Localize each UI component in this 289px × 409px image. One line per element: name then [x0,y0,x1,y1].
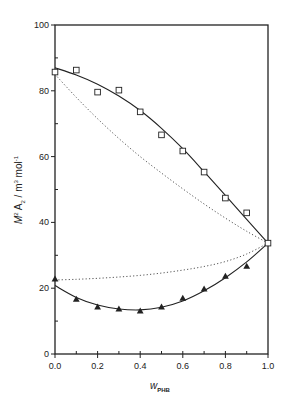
square-marker [159,132,165,138]
square-marker [201,169,207,175]
x-tick-label: 0.8 [219,361,232,371]
solid-fit-curve [55,243,268,310]
square-marker [137,109,143,115]
triangle-marker [52,276,59,282]
y-axis-label: M2 A2 / m3 mol-1 [13,155,26,224]
y-tick-label: 40 [39,217,49,227]
square-marker [52,69,58,75]
y-tick-label: 20 [39,283,49,293]
square-marker [265,240,271,246]
data-lines [55,68,268,310]
solid-fit-curve [55,68,268,243]
x-tick-label: 0.6 [177,361,190,371]
square-marker [116,87,122,93]
x-tick-label: 0.4 [134,361,147,371]
dotted-curve [55,74,268,243]
x-tick-label: 0.0 [49,361,62,371]
y-tick-label: 0 [44,349,49,359]
dotted-curve [55,243,268,280]
square-marker [180,148,186,154]
x-tick-label: 1.0 [262,361,275,371]
data-markers [52,67,271,313]
chart: 0.00.20.40.60.81.0 020406080100 wPHB M2 … [0,0,289,409]
y-tick-label: 100 [34,20,49,30]
x-tick-label: 0.2 [91,361,104,371]
triangle-marker [179,295,186,301]
x-axis-label: wPHB [150,380,171,393]
square-marker [74,67,80,73]
square-marker [223,195,229,201]
square-marker [244,210,250,216]
y-tick-label: 80 [39,86,49,96]
y-tick-label: 60 [39,152,49,162]
square-marker [95,89,101,95]
triangle-marker [201,285,208,291]
